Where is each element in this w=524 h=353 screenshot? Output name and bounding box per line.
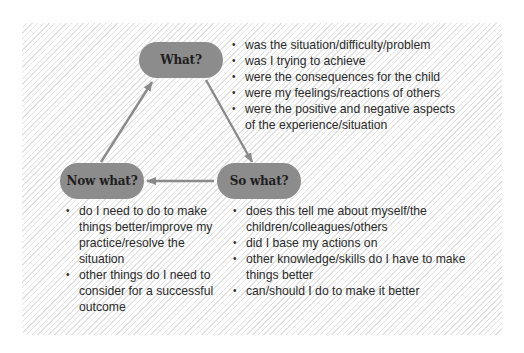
- bullet-icon: •: [66, 267, 70, 283]
- bullet-icon: •: [232, 37, 236, 53]
- list-item: •were my feelings/reactions of others: [232, 85, 492, 101]
- list-item: •can/should I do to make it better: [233, 283, 493, 299]
- list-item: •do I need to do to make things better/i…: [66, 203, 214, 267]
- list-item: •other things do I need to consider for …: [66, 267, 214, 315]
- bullet-icon: •: [232, 69, 236, 85]
- bullet-icon: •: [66, 203, 70, 219]
- list-item: •were the consequences for the child: [232, 69, 492, 85]
- bullet-icon: •: [233, 235, 237, 251]
- list-item: •were the positive and negative aspects …: [232, 101, 457, 133]
- now-what-question-list: •do I need to do to make things better/i…: [66, 203, 214, 315]
- bullet-icon: •: [233, 283, 237, 299]
- node-what: What?: [139, 42, 223, 78]
- bullet-icon: •: [232, 85, 236, 101]
- so-what-question-list: •does this tell me about myself/the chil…: [233, 203, 493, 299]
- node-so-what-label: So what?: [230, 174, 289, 188]
- bullet-icon: •: [233, 203, 237, 219]
- bullet-icon: •: [233, 251, 237, 267]
- list-item: •was the situation/difficulty/problem: [232, 37, 492, 53]
- node-now-what: Now what?: [60, 163, 144, 199]
- bullet-icon: •: [232, 101, 236, 117]
- node-so-what: So what?: [217, 163, 301, 199]
- list-item: •does this tell me about myself/the chil…: [233, 203, 468, 235]
- bullet-icon: •: [232, 53, 236, 69]
- list-item: •other knowledge/skills do I have to mak…: [233, 251, 484, 283]
- list-item: •did I base my actions on: [233, 235, 493, 251]
- node-what-label: What?: [160, 53, 202, 67]
- arrow-nowwhat-to-what: [101, 82, 152, 162]
- what-question-list: •was the situation/difficulty/problem •w…: [232, 37, 492, 133]
- list-item: •was I trying to achieve: [232, 53, 492, 69]
- node-now-what-label: Now what?: [66, 174, 137, 188]
